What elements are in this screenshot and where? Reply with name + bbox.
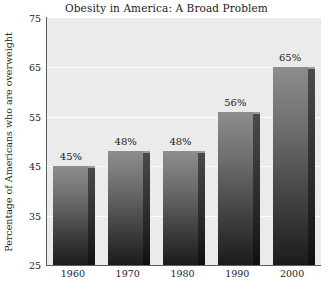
bar-value-label: 56%	[224, 97, 246, 108]
y-axis-tick-label: 45	[29, 161, 41, 172]
bar-value-label: 45%	[60, 151, 82, 162]
y-axis-tick-label: 25	[29, 260, 41, 271]
bar-top-edge	[198, 151, 205, 153]
bar-value-label: 48%	[115, 136, 137, 147]
x-axis-tick-label: 1980	[170, 268, 194, 279]
bars-layer: 45%48%48%56%65%	[47, 18, 321, 265]
bar-face	[218, 112, 253, 265]
bar-face	[108, 151, 143, 265]
x-axis-tick-labels: 19601970198019902000	[47, 268, 321, 288]
bar-top-edge	[253, 112, 260, 114]
bar-face	[163, 151, 198, 265]
plot-area: 45%48%48%56%65%	[47, 18, 321, 265]
bar-top-edge	[143, 151, 150, 153]
bar-side-panel	[198, 153, 205, 265]
bar-top-edge	[308, 67, 315, 69]
bar-side-panel	[88, 168, 95, 265]
x-axis-line	[46, 265, 321, 266]
x-axis-tick-label: 1990	[225, 268, 249, 279]
bar-top-edge	[88, 166, 95, 168]
chart-title: Obesity in America: A Broad Problem	[0, 2, 333, 14]
bar[interactable]	[53, 166, 95, 265]
y-axis-tick-label: 75	[29, 13, 41, 24]
y-axis-tick-label: 55	[29, 111, 41, 122]
bar-side-panel	[308, 69, 315, 265]
bar[interactable]	[273, 67, 315, 265]
bar-chart: Obesity in America: A Broad Problem Perc…	[0, 0, 333, 292]
bar-face	[53, 166, 88, 265]
y-axis-label: Percentage of Americans who are overweig…	[3, 32, 14, 252]
y-axis-tick-label: 65	[29, 62, 41, 73]
bar-side-panel	[143, 153, 150, 265]
bar[interactable]	[218, 112, 260, 265]
y-axis-tick-label: 35	[29, 210, 41, 221]
y-axis-tick-labels: 253545556575	[18, 18, 44, 265]
bar-side-panel	[253, 114, 260, 265]
bar-value-label: 65%	[279, 52, 301, 63]
bar[interactable]	[163, 151, 205, 265]
x-axis-tick-label: 1960	[61, 268, 85, 279]
y-axis-label-container: Percentage of Americans who are overweig…	[0, 18, 16, 265]
bar-value-label: 48%	[169, 136, 191, 147]
bar-face	[273, 67, 308, 265]
x-axis-tick-label: 1970	[116, 268, 140, 279]
bar[interactable]	[108, 151, 150, 265]
x-axis-tick-label: 2000	[280, 268, 304, 279]
